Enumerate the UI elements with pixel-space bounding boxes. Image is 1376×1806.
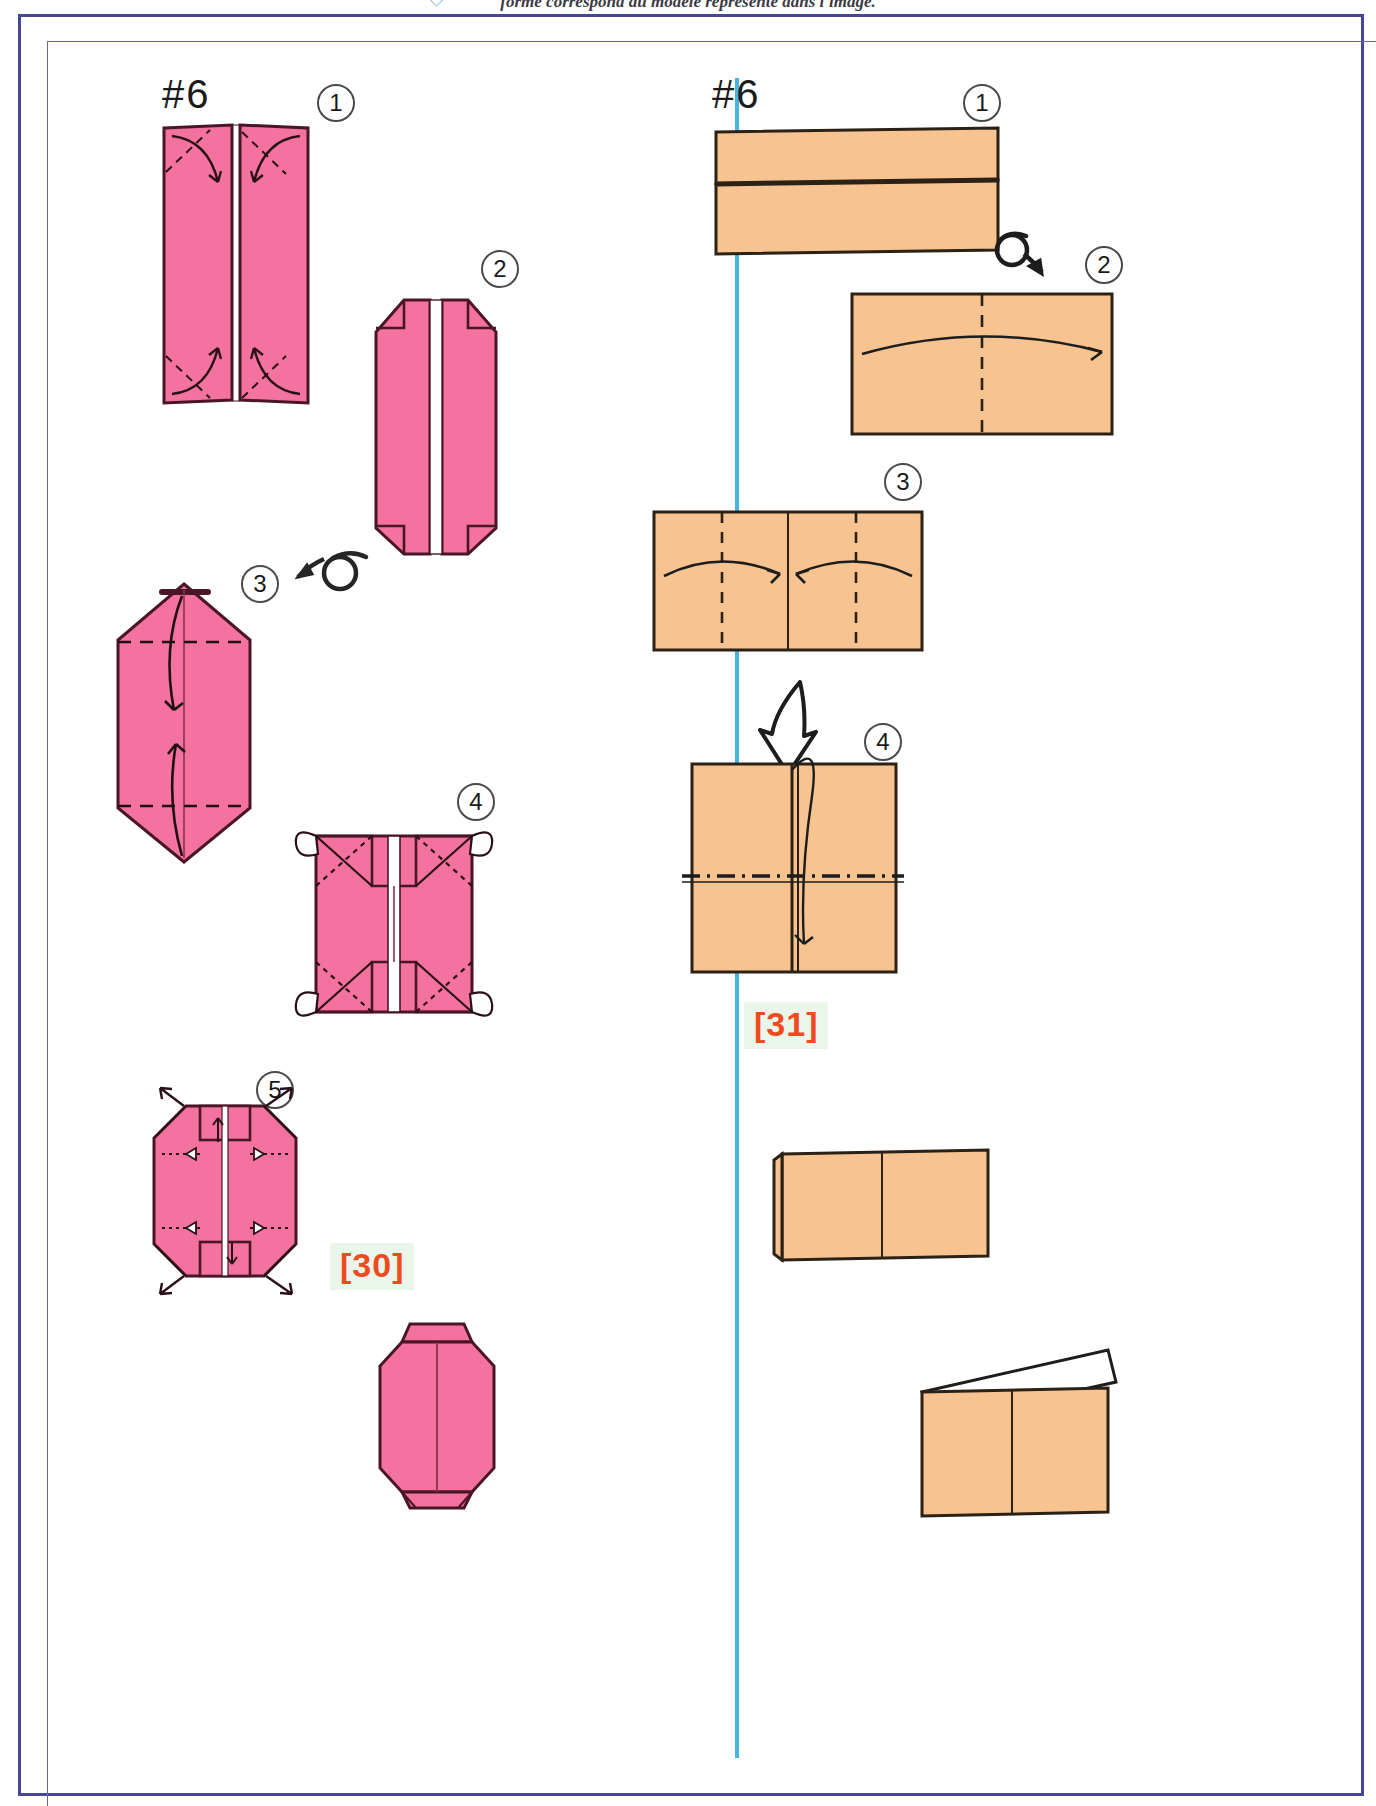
right-reference-tag: [31]	[744, 1002, 828, 1049]
left-turn-over-icon	[288, 543, 370, 595]
left-step-2-figure	[368, 296, 504, 558]
left-step-1-badge: 1	[317, 84, 355, 122]
left-step-1-figure	[160, 120, 320, 410]
right-step-2-badge: 2	[1085, 246, 1123, 284]
running-header-text: forme correspond au modèle représenté da…	[0, 0, 1376, 12]
left-step-5-figure	[140, 1092, 310, 1292]
right-result-figure-1	[770, 1146, 996, 1266]
right-step-1-figure	[712, 124, 1004, 264]
right-turn-over-icon	[988, 228, 1066, 282]
left-step-2-badge: 2	[481, 250, 519, 288]
right-result-figure-2	[912, 1330, 1122, 1520]
left-step-4-badge: 4	[457, 783, 495, 821]
right-model-title: #6	[712, 72, 761, 117]
right-step-2-figure	[848, 290, 1116, 438]
right-step-4-figure	[688, 756, 904, 980]
left-step-3-figure	[104, 578, 264, 868]
right-step-3-badge: 3	[884, 463, 922, 501]
origami-diagram-page: forme correspond au modèle représenté da…	[0, 0, 1376, 1806]
left-step-4-figure	[296, 818, 492, 1030]
left-model-title: #6	[162, 72, 211, 117]
right-step-3-figure	[650, 506, 926, 654]
left-final-figure	[372, 1320, 502, 1510]
left-reference-tag: [30]	[330, 1243, 414, 1290]
right-step-1-badge: 1	[963, 84, 1001, 122]
